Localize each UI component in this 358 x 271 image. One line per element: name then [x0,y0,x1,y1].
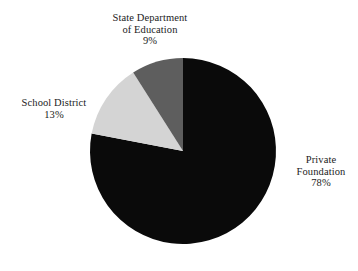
pie-chart-figure: State Department of Education 9% School … [0,0,358,271]
pie-label-school-district-value: 13% [8,109,100,121]
chart-plot-area: State Department of Education 9% School … [0,0,358,271]
pie-label-state-department-line1: State Department [85,12,215,24]
pie-label-private-foundation: Private Foundation 78% [288,154,354,189]
pie-label-private-foundation-line1: Private [288,154,354,166]
pie-label-state-department-value: 9% [85,35,215,47]
pie-label-school-district: School District 13% [8,97,100,120]
pie-label-school-district-line1: School District [8,97,100,109]
pie-label-state-department: State Department of Education 9% [85,12,215,47]
pie-label-state-department-line2: of Education [85,24,215,36]
pie-label-private-foundation-line2: Foundation [288,166,354,178]
pie-label-private-foundation-value: 78% [288,177,354,189]
